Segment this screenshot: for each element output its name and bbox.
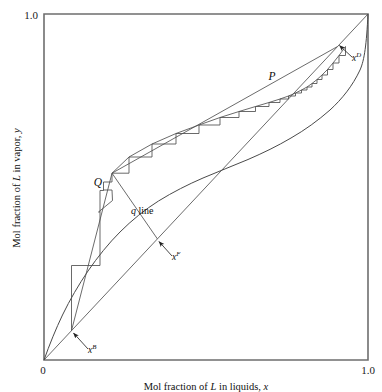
stage-step-rectifying — [112, 99, 280, 173]
rectifying-operating-line — [112, 47, 337, 174]
point-p-label: P — [267, 70, 275, 82]
composition-labels-group: xD xF xB — [87, 51, 361, 355]
x-axis-max-tick: 1.0 — [361, 364, 375, 376]
annotation-leaders-group — [74, 46, 353, 350]
xb-label-sup: B — [92, 343, 96, 350]
x-axis-min-tick: 0 — [40, 364, 46, 376]
axis-titles-group: Mol fraction of L in liquids, x Mol frac… — [11, 128, 269, 392]
y-axis-max-tick: 1.0 — [24, 9, 38, 21]
xb-label: xB — [87, 343, 96, 355]
y-axis-title: Mol fraction of L in vapor, y — [11, 128, 22, 248]
y-axis-title-middle: in vapor, — [11, 133, 22, 175]
xd-label: xD — [351, 51, 361, 63]
x-axis-title: Mol fraction of L in liquids, x — [144, 381, 269, 392]
point-labels-group: P Q — [94, 70, 276, 188]
stage-steps-group — [72, 47, 346, 331]
q-line-label-group: q line — [131, 205, 154, 216]
diagonal-line-group — [44, 14, 368, 360]
x-axis-title-middle: in liquids, — [216, 381, 263, 392]
point-q-label: Q — [94, 176, 103, 188]
xd-label-sup: D — [355, 51, 361, 58]
y-axis-title-symbol: y — [11, 128, 22, 134]
xf-leader-arrow — [159, 242, 172, 257]
q-line-label: q line — [131, 205, 154, 216]
xb-leader-arrow — [74, 333, 89, 349]
equilibrium-diagram-svg: 1.0 0 1.0 Mol fraction of L in liquids, … — [0, 0, 382, 392]
stripping-operating-line — [72, 173, 113, 330]
mccabe-thiele-figure: 1.0 0 1.0 Mol fraction of L in liquids, … — [0, 0, 382, 392]
stage-step-hatching — [112, 47, 346, 174]
q-line-label-rest: line — [136, 205, 154, 216]
stage-step-stripping — [72, 190, 113, 331]
diagonal-45-line — [44, 14, 368, 360]
xf-label: xF — [171, 250, 181, 262]
x-axis-title-prefix: Mol fraction of — [144, 381, 211, 392]
tick-labels-group: 1.0 0 1.0 — [24, 9, 375, 376]
xf-label-sup: F — [175, 250, 181, 257]
y-axis-title-prefix: Mol fraction of — [11, 181, 22, 248]
x-axis-title-symbol: x — [263, 381, 269, 392]
